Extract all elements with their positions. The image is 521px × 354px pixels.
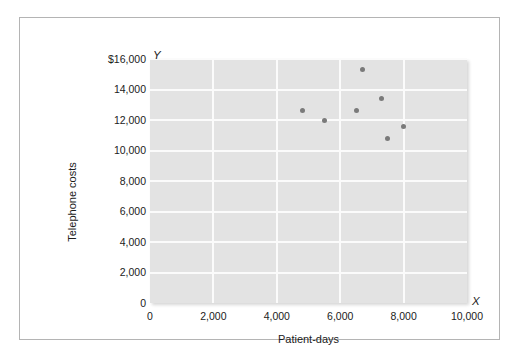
gridline-horizontal (150, 241, 467, 243)
gridline-horizontal (150, 89, 467, 91)
x-axis-title: Patient-days (150, 333, 467, 345)
data-point (385, 136, 390, 141)
plot-area (150, 59, 467, 303)
y-axis-tick-label: 0 (72, 298, 146, 309)
x-axis-tick-label: 8,000 (369, 310, 439, 322)
x-axis-tick-label: 6,000 (305, 310, 375, 322)
gridline-vertical (276, 59, 278, 303)
x-axis-tick-labels: 02,0004,0006,0008,00010,000 (150, 310, 467, 326)
figure-frame: 02,0004,0006,0008,00010,00012,00014,000$… (19, 17, 500, 340)
y-axis-title: Telephone costs (66, 112, 78, 292)
data-point (360, 67, 365, 72)
gridline-vertical (339, 59, 341, 303)
gridline-horizontal (150, 272, 467, 274)
data-point (300, 108, 305, 113)
y-axis-tick-label: 4,000 (72, 237, 146, 248)
x-axis-tick-label: 2,000 (178, 310, 248, 322)
x-axis-tick-label: 0 (115, 310, 185, 322)
gridline-horizontal (150, 58, 467, 60)
gridline-horizontal (150, 119, 467, 121)
scatter-plot-figure: 02,0004,0006,0008,00010,00012,00014,000$… (0, 0, 521, 354)
x-axis-letter: X (472, 295, 480, 307)
y-axis-tick-label: 12,000 (72, 115, 146, 126)
y-axis-tick-label: 2,000 (72, 267, 146, 278)
gridline-horizontal (150, 150, 467, 152)
y-axis-tick-label: $16,000 (72, 54, 146, 65)
gridline-vertical (403, 59, 405, 303)
x-axis-tick-label: 10,000 (432, 310, 502, 322)
data-point (401, 124, 406, 129)
y-axis-tick-label: 14,000 (72, 84, 146, 95)
y-axis-title-wrapper: Telephone costs (44, 48, 64, 298)
gridline-horizontal (150, 180, 467, 182)
y-axis-letter: Y (153, 49, 161, 61)
gridline-vertical (212, 59, 214, 303)
data-point (322, 118, 327, 123)
y-axis-tick-label: 10,000 (72, 145, 146, 156)
data-point (354, 108, 359, 113)
y-axis-tick-label: 6,000 (72, 206, 146, 217)
y-axis-tick-labels: 02,0004,0006,0008,00010,00012,00014,000$… (68, 59, 146, 303)
x-axis-tick-label: 4,000 (242, 310, 312, 322)
gridline-horizontal (150, 211, 467, 213)
data-point (379, 96, 384, 101)
y-axis-tick-label: 8,000 (72, 176, 146, 187)
